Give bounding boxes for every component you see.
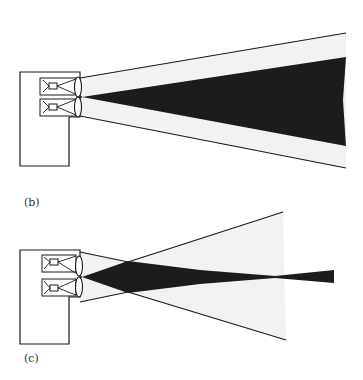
panel-label-b: (b): [24, 196, 40, 209]
lamp-upper-c: [50, 259, 58, 265]
lens-lower-b: [75, 97, 82, 117]
panel-c: [20, 212, 334, 344]
lamp-lower-b: [49, 104, 57, 110]
panel-b: [20, 33, 346, 168]
diagram-canvas: [0, 0, 363, 380]
lens-lower-c: [76, 277, 83, 297]
lens-upper-b: [75, 77, 82, 97]
lamp-upper-b: [49, 83, 57, 89]
lamp-lower-c: [50, 285, 58, 291]
projector-housing-b: [20, 72, 80, 166]
lens-upper-c: [76, 256, 83, 276]
panel-label-c: (c): [24, 352, 39, 365]
